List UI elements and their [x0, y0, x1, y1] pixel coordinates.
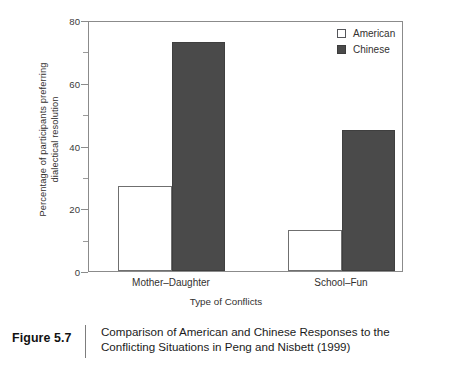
legend-item-american: American [337, 27, 395, 39]
y-tick-label-80: 80 [56, 16, 80, 27]
bar-american-school-fun [288, 230, 342, 271]
y-tick-label-40: 40 [56, 141, 80, 152]
bar-american-mother-daughter [118, 186, 172, 271]
bar-chinese-school-fun [342, 130, 395, 271]
x-category-label-mother-daughter: Mother–Daughter [132, 277, 210, 288]
figure-5-7: Percentage of participants preferring di… [0, 0, 452, 365]
x-category-label-school-fun: School–Fun [314, 277, 367, 288]
plot-area: American Chinese [88, 21, 403, 272]
caption-divider [85, 325, 86, 358]
legend-label-chinese: Chinese [353, 44, 390, 55]
y-tick-label-60: 60 [56, 78, 80, 89]
caption-line-2: Conflicting Situations in Peng and Nisbe… [101, 339, 441, 354]
legend: American Chinese [337, 27, 395, 55]
legend-label-american: American [353, 28, 395, 39]
y-tick-mark-80 [81, 21, 88, 22]
legend-swatch-american-icon [337, 29, 346, 38]
y-tick-mark-40 [81, 147, 88, 148]
caption-text: Comparison of American and Chinese Respo… [101, 324, 441, 354]
x-axis-title: Type of Conflicts [0, 296, 452, 307]
y-tick-mark-20 [81, 209, 88, 210]
y-axis-title-line-2: dialectical resolution [49, 15, 61, 265]
legend-item-chinese: Chinese [337, 43, 395, 55]
figure-caption: Figure 5.7 Comparison of American and Ch… [0, 322, 452, 365]
y-axis-title: Percentage of participants preferring di… [38, 15, 61, 265]
y-axis-title-line-1: Percentage of participants preferring [38, 15, 50, 265]
legend-swatch-chinese-icon [337, 45, 346, 54]
bar-chart: Percentage of participants preferring di… [0, 0, 452, 300]
y-tick-mark-60 [81, 84, 88, 85]
y-tick-label-0: 0 [56, 267, 80, 278]
figure-number-label: Figure 5.7 [12, 331, 72, 345]
y-tick-label-20: 20 [56, 204, 80, 215]
caption-line-1: Comparison of American and Chinese Respo… [101, 324, 441, 339]
bar-chinese-mother-daughter [172, 42, 225, 271]
y-tick-mark-0 [81, 272, 88, 273]
